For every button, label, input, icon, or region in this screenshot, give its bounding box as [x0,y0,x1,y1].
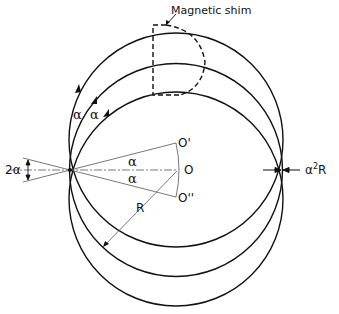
line-to-O-double-prime [23,158,176,197]
aberration-alpha: α [305,163,313,177]
line-to-O-prime [23,143,176,182]
arrow-central-icon [91,96,97,104]
shim-label: Magnetic shim [171,4,251,17]
center-O-prime-label: O' [178,136,191,150]
arrow-upper-icon [75,84,81,93]
focusing-diagram: Magnetic shim α α 2α α α O' O O'' R [0,0,339,314]
source-point [68,168,72,172]
alpha-label-upper: α [128,154,137,169]
upper-trajectory-circle [69,33,283,247]
alpha-label-left-1: α [73,107,82,122]
arrow-lower-icon [103,109,109,117]
lower-trajectory-circle [69,92,283,306]
two-alpha-label: 2α [5,163,21,177]
alpha-label-lower: α [128,171,137,186]
arc-O-prime-to-O-double-prime [176,143,179,197]
center-O-label: O [184,163,193,177]
aberration-dimension [263,168,300,173]
center-O-double-prime-label: O'' [178,191,194,205]
alpha-label-left-2: α [90,107,99,122]
aberration-R: R [318,163,326,177]
aberration-label: α2R [305,162,326,177]
construction-lines [10,143,179,246]
radius-label: R [136,201,144,215]
trajectory-circles [69,33,283,306]
